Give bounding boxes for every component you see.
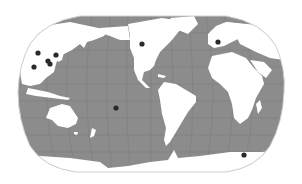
map-marker-asia-5[interactable]	[31, 64, 36, 69]
map-marker-north-america-1[interactable]	[139, 41, 144, 46]
map-canvas[interactable]	[0, 0, 302, 184]
map-marker-europe-1[interactable]	[215, 39, 220, 44]
map-marker-asia-4[interactable]	[47, 61, 52, 66]
map-marker-southern-ocean-1[interactable]	[241, 152, 246, 157]
world-map[interactable]	[0, 0, 302, 184]
map-marker-pacific-1[interactable]	[113, 105, 118, 110]
map-marker-asia-2[interactable]	[53, 52, 58, 57]
map-marker-asia-1[interactable]	[35, 50, 40, 55]
